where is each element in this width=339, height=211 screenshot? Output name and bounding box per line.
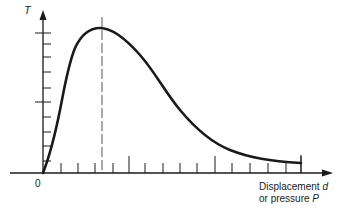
y-axis (35, 10, 51, 173)
y-axis-arrow-icon (40, 10, 47, 20)
x-axis-arrow-icon (322, 170, 333, 177)
x-axis-variable-d: d (322, 181, 328, 192)
x-axis-label-text: Displacement (259, 181, 320, 192)
x-axis (10, 156, 333, 177)
x-axis-label-line1: Displacement d (259, 181, 328, 193)
origin-label: 0 (35, 178, 41, 190)
x-axis-label-line2: or pressure P (259, 193, 319, 205)
chart-canvas (0, 0, 339, 211)
data-curve (43, 28, 301, 173)
y-axis-label: T (24, 4, 31, 16)
x-axis-variable-p: P (312, 193, 319, 204)
x-axis-label-text-2: or pressure (259, 193, 310, 204)
